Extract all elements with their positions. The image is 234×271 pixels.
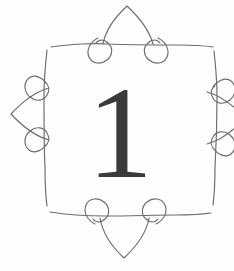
frame-edge-left: [44, 50, 47, 206]
frame-edge-top: [51, 44, 213, 47]
ornament-page: 1: [0, 0, 234, 271]
loop-bottom-right: [142, 199, 166, 224]
frame-edge-right: [213, 51, 217, 205]
frame-edge-bottom: [50, 212, 211, 216]
ornament-frame: [0, 0, 234, 271]
arch-top: [103, 6, 153, 44]
loop-top-left: [88, 38, 112, 63]
loop-left-lower: [25, 128, 49, 152]
loop-top-right: [144, 38, 168, 63]
arch-left: [11, 88, 49, 140]
loop-left-upper: [25, 76, 49, 100]
loop-bottom-left: [85, 199, 109, 224]
arch-bottom: [100, 218, 149, 258]
loop-right-lower: [211, 132, 234, 156]
